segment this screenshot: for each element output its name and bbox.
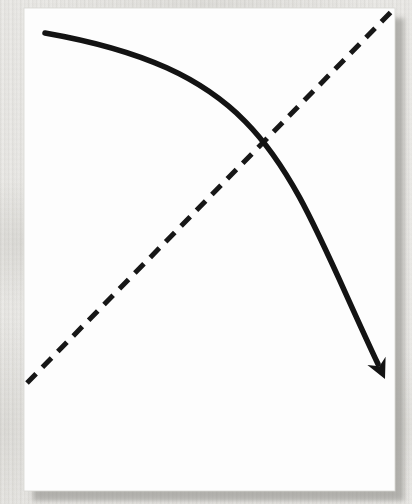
origami-fold-diagram <box>0 0 412 504</box>
fabric-background <box>0 0 412 504</box>
paper-sheet <box>24 8 395 491</box>
